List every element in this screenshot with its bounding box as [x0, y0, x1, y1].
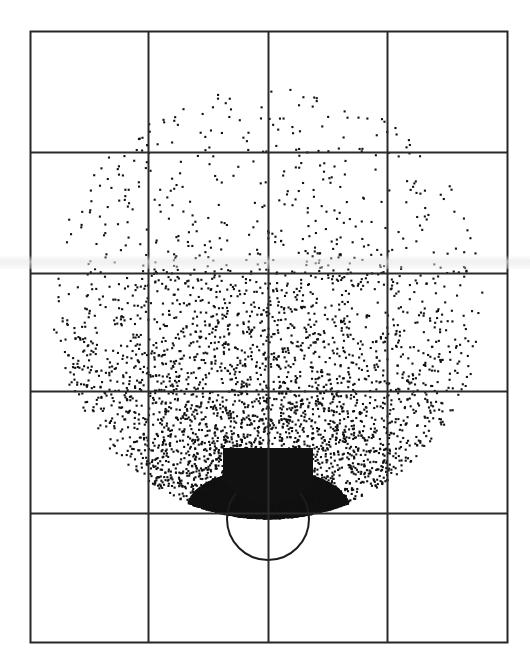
scatter-plot-canvas — [0, 0, 530, 669]
scatter-plot-figure: Dense black saturated core at the lower-… — [0, 0, 530, 669]
